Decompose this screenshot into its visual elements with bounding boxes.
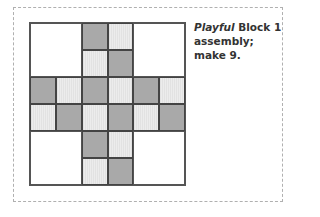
light-square — [108, 77, 134, 104]
corner-square-top-left — [30, 23, 82, 77]
caption-line2: assembly; — [194, 34, 284, 48]
light-square — [133, 104, 159, 131]
dark-square — [108, 158, 134, 185]
caption: Playful Block 1 assembly; make 9. — [194, 20, 284, 62]
corner-square-bottom-right — [133, 131, 185, 185]
light-square — [82, 50, 108, 77]
dark-square — [30, 77, 56, 104]
dark-square — [56, 104, 82, 131]
dark-square — [108, 104, 134, 131]
dark-square — [133, 77, 159, 104]
light-square — [108, 131, 134, 158]
dark-square — [82, 131, 108, 158]
caption-line1: Block 1 — [235, 21, 282, 33]
light-square — [82, 158, 108, 185]
light-square — [30, 104, 56, 131]
light-square — [82, 104, 108, 131]
light-square — [159, 77, 185, 104]
dark-square — [108, 50, 134, 77]
caption-italic: Playful — [194, 21, 235, 33]
light-square — [108, 23, 134, 50]
corner-square-top-right — [133, 23, 185, 77]
caption-line3: make 9. — [194, 48, 284, 62]
dark-square — [82, 77, 108, 104]
corner-square-bottom-left — [30, 131, 82, 185]
dark-square — [159, 104, 185, 131]
dark-square — [82, 23, 108, 50]
light-square — [56, 77, 82, 104]
quilt-block-diagram — [29, 22, 186, 186]
